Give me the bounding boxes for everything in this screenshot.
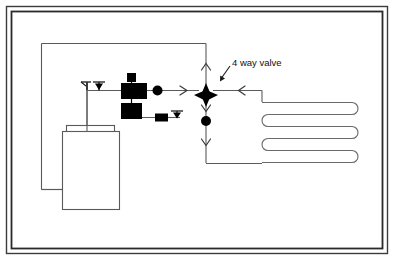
hvac-schematic-diagram: 4 way valve (0, 0, 394, 260)
filter-drier-block (155, 114, 168, 122)
down-arrow-valve-head (95, 84, 103, 91)
flow-direction-markers (180, 64, 245, 146)
four-way-valve-symbol (194, 83, 218, 107)
accumulator-block (121, 103, 142, 119)
accumulator-group (121, 99, 142, 119)
label-leader-line (222, 66, 231, 78)
compressor-group (121, 73, 147, 99)
lower-check-valve (201, 116, 211, 126)
service-valve-upper-group (81, 82, 105, 91)
four-way-valve-label-group: 4 way valve (220, 57, 282, 82)
storage-tank-group (63, 126, 120, 210)
filter-drier-group (155, 114, 168, 122)
compressor-block (121, 83, 147, 99)
four-way-valve-label: 4 way valve (232, 57, 282, 68)
tank-front-outline (63, 132, 120, 210)
sight-glass-valve (153, 86, 163, 96)
compressor-cap-fitting (127, 73, 136, 82)
radiant-floor-loop (262, 103, 358, 163)
schematic-canvas: 4 way valve (0, 0, 394, 260)
